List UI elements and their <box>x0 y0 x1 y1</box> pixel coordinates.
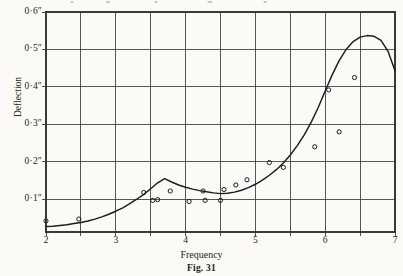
data-point-marker <box>168 189 172 193</box>
data-point-marker <box>245 178 249 182</box>
y-axis-tick-label: 0·1″ <box>5 194 42 204</box>
x-axis-tick-label: 7 <box>388 236 402 246</box>
data-point-marker <box>352 75 356 79</box>
data-point-marker <box>77 217 81 221</box>
x-axis-tick-labels: 234567 <box>0 236 403 250</box>
figure-root: 0·6″0·5″0·4″0·3″0·2″0·1″ 234567 Deflecti… <box>0 0 403 276</box>
plot-canvas <box>0 0 403 276</box>
data-point-marker <box>327 88 331 92</box>
data-point-marker <box>313 145 317 149</box>
grid-lines <box>46 12 395 232</box>
x-axis-tick-label: 3 <box>109 236 123 246</box>
data-point-marker <box>267 160 271 164</box>
data-point-marker <box>234 183 238 187</box>
x-axis-title: Frequency <box>0 249 403 260</box>
y-axis-tick-label: 0·3″ <box>5 119 42 129</box>
y-axis-tick-label: 0·4″ <box>5 82 42 92</box>
data-point-marker <box>187 199 191 203</box>
x-axis-tick-label: 4 <box>179 236 193 246</box>
x-axis-tick-label: 5 <box>248 236 262 246</box>
data-point-marker <box>222 187 226 191</box>
data-points <box>44 75 357 223</box>
data-point-marker <box>281 165 285 169</box>
figure-caption: Fig. 31 <box>0 263 403 273</box>
x-axis-tick-label: 2 <box>39 236 53 246</box>
y-axis-tick-label: 0·6″ <box>5 7 42 17</box>
y-axis-tick-labels: 0·6″0·5″0·4″0·3″0·2″0·1″ <box>0 0 42 276</box>
y-axis-tick-label: 0·2″ <box>5 157 42 167</box>
x-axis-tick-label: 6 <box>318 236 332 246</box>
y-axis-tick-label: 0·5″ <box>5 44 42 54</box>
data-point-marker <box>337 130 341 134</box>
y-axis-title: Deflection <box>13 57 23 137</box>
